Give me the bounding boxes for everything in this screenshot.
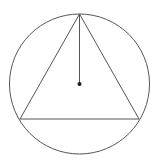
inscribed-triangle-figure: [0, 0, 157, 161]
diagram-canvas: [0, 0, 157, 161]
center-point: [78, 82, 82, 86]
